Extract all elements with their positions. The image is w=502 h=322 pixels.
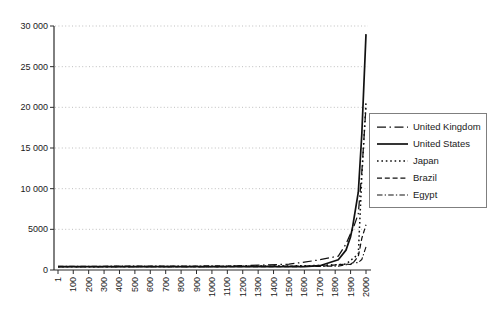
series-line-united-states [58,34,366,267]
legend-item-brazil: Brazil [377,170,482,185]
x-tick-label: 1100 [222,277,232,296]
x-tick-label: 1600 [299,277,309,297]
x-tick-label: 900 [192,277,202,292]
legend-line-swatch-egypt [377,190,408,200]
x-tick-label: 700 [161,277,171,292]
x-tick-labels: 1100200300400500600700800900100011001200… [53,270,371,297]
legend-line-swatch-united-states [377,139,408,149]
x-tick-label: 100 [68,277,78,292]
legend-line-swatch-japan [377,156,408,166]
legend-item-japan: Japan [377,153,482,168]
x-tick-label: 1900 [346,277,356,297]
y-tick-label: 10 000 [20,184,48,194]
y-tick-label: 20 000 [20,102,48,112]
x-tick-label: 400 [114,277,124,292]
x-tick-label: 800 [176,277,186,292]
y-tick-label: 5000 [28,224,48,234]
y-tick-label: 25 000 [20,62,48,72]
x-tick-label: 600 [145,277,155,292]
legend-label-japan: Japan [413,156,439,166]
legend-line-swatch-brazil [377,173,408,183]
axes [54,26,371,270]
legend-label-united-kingdom: United Kingdom [413,122,481,132]
x-tick-label: 500 [130,277,140,292]
legend-item-egypt: Egypt [377,187,482,202]
series-line-united-kingdom [58,107,366,267]
gdp-per-capita-line-chart: 0500010 00015 00020 00025 00030 00011002… [0,0,502,322]
series-line-japan [58,103,366,267]
legend-item-united-states: United States [377,136,482,151]
y-tick-label: 15 000 [20,143,48,153]
y-tick-label: 30 000 [20,21,48,31]
y-tick-labels: 0500010 00015 00020 00025 00030 000 [20,21,54,275]
y-tick-label: 0 [43,265,48,275]
x-tick-label: 2000 [361,277,371,297]
x-tick-label: 1400 [269,277,279,297]
series-lines [58,34,366,267]
legend-line-swatch-united-kingdom [377,122,408,132]
legend-item-united-kingdom: United Kingdom [377,119,482,134]
series-line-brazil [58,225,366,267]
x-tick-label: 1700 [315,277,325,297]
legend-label-egypt: Egypt [413,190,437,200]
x-tick-label: 300 [99,277,109,292]
x-tick-label: 1800 [330,277,340,297]
x-tick-label: 1200 [238,277,248,297]
x-tick-label: 200 [84,277,94,292]
x-tick-label: 1300 [253,277,263,297]
x-tick-label: 1000 [207,277,217,297]
series-line-egypt [58,247,366,266]
legend-label-united-states: United States [413,139,470,149]
legend-label-brazil: Brazil [413,173,437,183]
x-tick-label: 1500 [284,277,294,297]
y-gridlines [55,26,368,229]
x-tick-label: 1 [53,277,63,282]
legend-box: United Kingdom United States Japan Brazi… [369,113,487,208]
